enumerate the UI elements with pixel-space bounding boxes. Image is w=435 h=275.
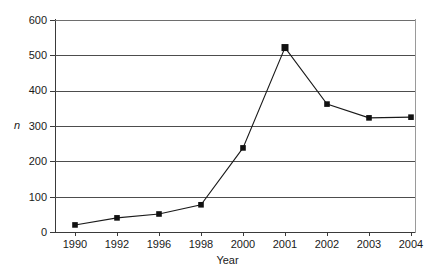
x-tick-mark-2001: [285, 232, 286, 236]
x-tick-mark-1992: [117, 232, 118, 236]
data-point-1996: [156, 211, 162, 217]
x-tick-mark-2000: [243, 232, 244, 236]
series-markers: [72, 44, 414, 228]
series-line: [75, 48, 411, 225]
x-tick-mark-1998: [201, 232, 202, 236]
x-tick-mark-2004: [411, 232, 412, 236]
line-chart: n 600 500 400 300 200 100 0 1990: [0, 0, 435, 275]
data-point-2004: [408, 114, 414, 120]
data-point-2001: [282, 44, 289, 51]
x-tick-mark-2002: [327, 232, 328, 236]
x-tick-mark-2003: [369, 232, 370, 236]
data-point-2000: [240, 145, 246, 151]
data-point-1990: [72, 222, 78, 228]
data-point-2002: [324, 101, 330, 107]
data-point-1992: [114, 215, 120, 221]
x-tick-mark-1996: [159, 232, 160, 236]
x-tick-mark-1990: [75, 232, 76, 236]
data-point-2003: [366, 115, 372, 121]
data-point-1998: [198, 202, 204, 208]
